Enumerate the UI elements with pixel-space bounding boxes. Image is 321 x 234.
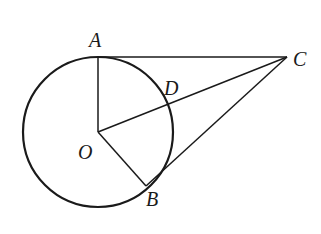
label-c: C: [293, 48, 307, 70]
label-d: D: [163, 77, 179, 99]
label-o: O: [78, 141, 92, 163]
geometry-figure: A C D O B: [0, 0, 321, 234]
segment-oc: [98, 57, 287, 132]
label-a: A: [87, 29, 102, 51]
diagram-canvas: A C D O B: [0, 0, 321, 234]
label-b: B: [146, 188, 158, 210]
segment-ob: [98, 132, 146, 186]
